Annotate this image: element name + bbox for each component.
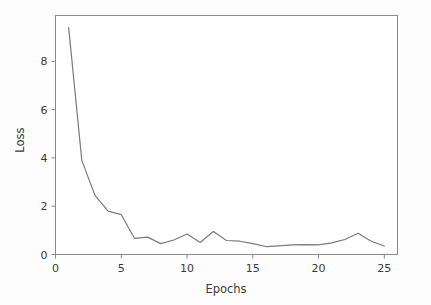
y-axis-ticks: 02468 — [41, 55, 56, 261]
x-tick-label: 25 — [377, 262, 391, 275]
x-axis-label: Epochs — [205, 282, 246, 296]
y-axis-label: Loss — [13, 127, 27, 152]
x-tick-label: 10 — [180, 262, 194, 275]
y-tick-label: 2 — [41, 200, 48, 213]
y-tick-label: 6 — [41, 104, 48, 117]
chart-figure: 02468 0510152025 Epochs Loss — [0, 0, 431, 305]
plot-frame — [56, 16, 398, 255]
x-tick-label: 5 — [118, 262, 125, 275]
loss-curve-chart: 02468 0510152025 Epochs Loss — [0, 0, 431, 305]
y-tick-label: 4 — [41, 152, 48, 165]
y-tick-label: 0 — [41, 249, 48, 262]
x-axis-ticks: 0510152025 — [52, 255, 391, 275]
x-tick-label: 15 — [246, 262, 260, 275]
y-tick-label: 8 — [41, 55, 48, 68]
x-tick-label: 20 — [312, 262, 326, 275]
x-tick-label: 0 — [52, 262, 59, 275]
